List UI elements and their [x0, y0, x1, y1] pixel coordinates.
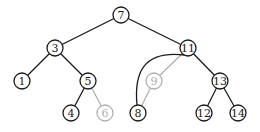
- tree-node-7: 7: [113, 7, 129, 23]
- nodes-layer: 7311159134681214: [14, 7, 246, 121]
- node-label: 12: [197, 107, 211, 120]
- tree-node-8: 8: [130, 105, 146, 121]
- node-label: 11: [181, 42, 195, 55]
- tree-node-12: 12: [196, 105, 212, 121]
- tree-node-9: 9: [146, 73, 162, 89]
- tree-node-4: 4: [63, 105, 79, 121]
- node-label: 9: [151, 75, 158, 88]
- tree-node-14: 14: [230, 105, 246, 121]
- tree-node-5: 5: [80, 73, 96, 89]
- node-label: 5: [85, 75, 92, 88]
- node-label: 1: [19, 75, 26, 88]
- tree-node-6: 6: [97, 105, 113, 121]
- node-label: 14: [231, 107, 245, 120]
- tree-diagram: 7311159134681214: [0, 0, 260, 132]
- edge-7-11: [121, 15, 188, 48]
- tree-node-1: 1: [14, 73, 30, 89]
- edge-7-3: [55, 15, 121, 48]
- node-label: 7: [118, 9, 125, 22]
- edges-layer: [22, 15, 238, 113]
- node-label: 3: [52, 42, 59, 55]
- node-label: 13: [213, 75, 227, 88]
- node-label: 4: [68, 107, 75, 120]
- tree-node-13: 13: [212, 73, 228, 89]
- tree-node-3: 3: [47, 40, 63, 56]
- node-label: 6: [102, 107, 109, 120]
- tree-node-11: 11: [180, 40, 196, 56]
- node-label: 8: [135, 107, 142, 120]
